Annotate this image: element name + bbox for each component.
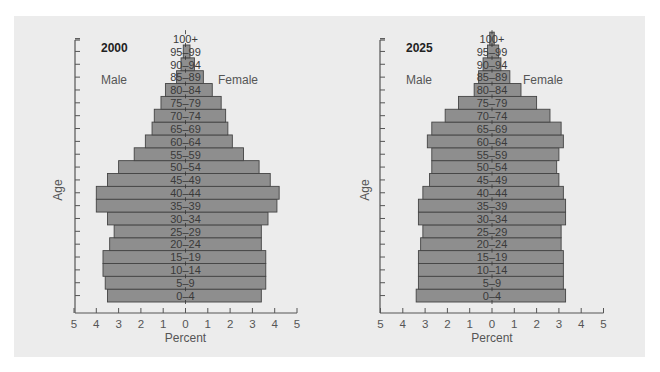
age-group-label: 90–94 [477, 59, 508, 71]
age-group-label: 0–4 [176, 290, 194, 302]
age-group-label: 55–59 [477, 149, 508, 161]
x-tick-label: 0 [489, 318, 495, 330]
x-tick-label: 1 [160, 318, 166, 330]
x-axis-title: Percent [471, 331, 513, 345]
x-tick-label: 5 [600, 318, 606, 330]
female-label: Female [523, 73, 563, 87]
age-group-label: 65–69 [477, 123, 508, 135]
age-group-label: 10–14 [477, 264, 508, 276]
age-group-label: 95–99 [477, 46, 508, 58]
age-group-label: 35–39 [170, 200, 201, 212]
age-group-label: 75–79 [477, 97, 508, 109]
age-group-label: 20–24 [170, 238, 201, 250]
x-tick-label: 1 [466, 318, 472, 330]
age-group-label: 60–64 [477, 136, 508, 148]
age-group-label: 15–19 [477, 251, 508, 263]
x-tick-label: 3 [249, 318, 255, 330]
age-group-label: 45–49 [477, 174, 508, 186]
age-group-label: 85–89 [170, 71, 201, 83]
male-label: Male [406, 73, 432, 87]
x-tick-label: 3 [556, 318, 562, 330]
age-group-label: 75–79 [170, 97, 201, 109]
x-tick-label: 5 [71, 318, 77, 330]
age-group-label: 5–9 [176, 277, 194, 289]
age-group-label: 50–54 [170, 161, 201, 173]
x-tick-label: 2 [138, 318, 144, 330]
y-axis-title: Age [51, 179, 65, 201]
age-group-label: 100+ [173, 33, 198, 45]
female-label: Female [218, 73, 258, 87]
x-tick-label: 0 [182, 318, 188, 330]
age-group-label: 25–29 [170, 226, 201, 238]
x-tick-label: 1 [205, 318, 211, 330]
age-group-label: 80–84 [477, 84, 508, 96]
x-tick-label: 2 [227, 318, 233, 330]
age-group-label: 70–74 [477, 110, 508, 122]
age-group-label: 60–64 [170, 136, 201, 148]
age-group-label: 5–9 [483, 277, 501, 289]
age-group-label: 35–39 [477, 200, 508, 212]
age-group-label: 70–74 [170, 110, 201, 122]
age-group-label: 20–24 [477, 238, 508, 250]
x-tick-label: 5 [377, 318, 383, 330]
age-group-label: 0–4 [483, 290, 501, 302]
y-axis-title: Age [358, 179, 372, 201]
age-group-label: 10–14 [170, 264, 201, 276]
x-tick-label: 4 [578, 318, 585, 330]
x-tick-label: 4 [271, 318, 278, 330]
chart-title: 2025 [406, 41, 433, 55]
age-group-label: 100+ [480, 33, 505, 45]
age-group-label: 95–99 [170, 46, 201, 58]
x-tick-label: 3 [422, 318, 428, 330]
pyramid-2025: 0–45–910–1415–1920–2425–2930–3435–3940–4… [358, 30, 607, 345]
age-group-label: 50–54 [477, 161, 508, 173]
x-tick-label: 4 [400, 318, 407, 330]
age-group-label: 30–34 [477, 213, 508, 225]
age-group-label: 55–59 [170, 149, 201, 161]
age-group-label: 90–94 [170, 59, 201, 71]
x-tick-label: 4 [93, 318, 100, 330]
x-tick-label: 3 [115, 318, 121, 330]
age-group-label: 45–49 [170, 174, 201, 186]
x-tick-label: 2 [444, 318, 450, 330]
age-group-label: 15–19 [170, 251, 201, 263]
age-group-label: 65–69 [170, 123, 201, 135]
age-group-label: 40–44 [170, 187, 201, 199]
age-group-label: 80–84 [170, 84, 201, 96]
chart-title: 2000 [101, 41, 128, 55]
age-group-label: 85–89 [477, 71, 508, 83]
x-tick-label: 1 [511, 318, 517, 330]
x-axis-title: Percent [165, 331, 207, 345]
population-pyramids-figure: 0–45–910–1415–1920–2425–2930–3435–3940–4… [0, 0, 660, 372]
pyramid-2000: 0–45–910–1415–1920–2425–2930–3435–3940–4… [51, 30, 300, 345]
male-label: Male [101, 73, 127, 87]
x-tick-label: 2 [533, 318, 539, 330]
x-tick-label: 5 [294, 318, 300, 330]
age-group-label: 30–34 [170, 213, 201, 225]
age-group-label: 40–44 [477, 187, 508, 199]
age-group-label: 25–29 [477, 226, 508, 238]
